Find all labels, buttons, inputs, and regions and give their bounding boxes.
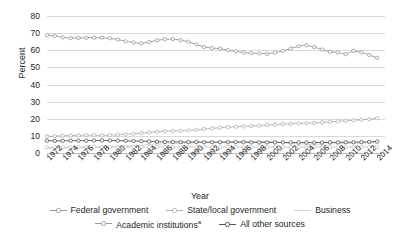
- legend-item[interactable]: All other sources: [219, 219, 305, 229]
- data-point: [250, 124, 253, 127]
- legend-label: All other sources: [240, 219, 305, 229]
- data-point: [187, 140, 190, 143]
- data-point: [281, 49, 284, 52]
- data-point: [360, 140, 363, 143]
- y-tick-label: 60: [18, 46, 40, 55]
- data-point: [195, 128, 198, 131]
- data-point: [203, 141, 206, 144]
- data-point: [265, 141, 268, 144]
- data-point: [289, 47, 292, 50]
- data-point: [305, 44, 308, 47]
- legend-marker-icon: [166, 206, 183, 215]
- data-point: [124, 133, 127, 136]
- legend-item[interactable]: Academic institutionsa: [95, 219, 201, 230]
- data-point: [85, 133, 88, 136]
- data-point: [45, 139, 48, 142]
- y-tick-label: 70: [18, 29, 40, 38]
- data-point: [281, 141, 284, 144]
- data-point: [273, 51, 276, 54]
- data-point: [100, 36, 103, 39]
- data-point: [360, 51, 363, 54]
- data-point: [368, 53, 371, 56]
- data-point: [116, 139, 119, 142]
- data-point: [195, 43, 198, 46]
- data-point: [344, 52, 347, 55]
- data-point: [53, 135, 56, 138]
- data-point: [344, 119, 347, 122]
- data-point: [100, 134, 103, 137]
- chart-figure: Percent 01020304050607080 19721974197619…: [0, 0, 400, 237]
- data-point: [336, 120, 339, 123]
- data-point: [61, 36, 64, 39]
- data-point: [179, 38, 182, 41]
- data-point: [320, 121, 323, 124]
- data-point: [265, 52, 268, 55]
- legend-row: Academic institutionsaAll other sources: [0, 217, 400, 231]
- legend-item[interactable]: State/local government: [166, 205, 276, 215]
- data-point: [297, 44, 300, 47]
- data-point: [53, 34, 56, 37]
- data-point: [61, 134, 64, 137]
- legend-row: Federal governmentState/local government…: [0, 203, 400, 217]
- data-point: [305, 122, 308, 125]
- y-tick-label: 0: [18, 149, 40, 158]
- data-point: [53, 139, 56, 142]
- data-point: [320, 48, 323, 51]
- series-lines: [47, 16, 385, 153]
- y-tick-label: 20: [18, 115, 40, 124]
- data-point: [140, 42, 143, 45]
- data-point: [45, 33, 48, 36]
- data-point: [69, 139, 72, 142]
- data-point: [297, 141, 300, 144]
- data-point: [265, 123, 268, 126]
- data-point: [313, 45, 316, 48]
- data-point: [375, 140, 378, 143]
- data-point: [218, 126, 221, 129]
- data-point: [108, 37, 111, 40]
- data-point: [328, 141, 331, 144]
- data-point: [92, 139, 95, 142]
- legend-item[interactable]: Business: [294, 205, 350, 215]
- data-point: [124, 40, 127, 43]
- plot-area: [47, 16, 385, 153]
- data-point: [92, 133, 95, 136]
- data-point: [85, 139, 88, 142]
- data-point: [69, 134, 72, 137]
- data-point: [234, 50, 237, 53]
- data-point: [210, 46, 213, 49]
- data-point: [140, 139, 143, 142]
- data-point: [313, 121, 316, 124]
- data-point: [163, 130, 166, 133]
- data-point: [226, 125, 229, 128]
- data-point: [116, 133, 119, 136]
- y-tick-label: 30: [18, 98, 40, 107]
- data-point: [258, 52, 261, 55]
- data-point: [45, 146, 48, 149]
- data-point: [203, 45, 206, 48]
- data-point: [203, 127, 206, 130]
- data-point: [242, 51, 245, 54]
- legend-marker-icon: [50, 206, 67, 215]
- y-tick-label: 40: [18, 81, 40, 90]
- series-4: [45, 139, 379, 144]
- data-point: [250, 141, 253, 144]
- data-point: [328, 50, 331, 53]
- data-point: [132, 132, 135, 135]
- data-point: [69, 36, 72, 39]
- legend-item[interactable]: Federal government: [50, 205, 149, 215]
- data-point: [375, 56, 378, 59]
- series-2: [45, 117, 379, 139]
- data-point: [234, 125, 237, 128]
- series-1: [45, 33, 379, 59]
- data-point: [92, 36, 95, 39]
- data-point: [187, 129, 190, 132]
- data-point: [352, 49, 355, 52]
- data-point: [352, 119, 355, 122]
- data-point: [218, 141, 221, 144]
- data-point: [375, 117, 378, 120]
- data-point: [155, 140, 158, 143]
- legend-marker-icon: [219, 220, 236, 229]
- data-point: [108, 133, 111, 136]
- data-point: [77, 134, 80, 137]
- data-point: [368, 118, 371, 121]
